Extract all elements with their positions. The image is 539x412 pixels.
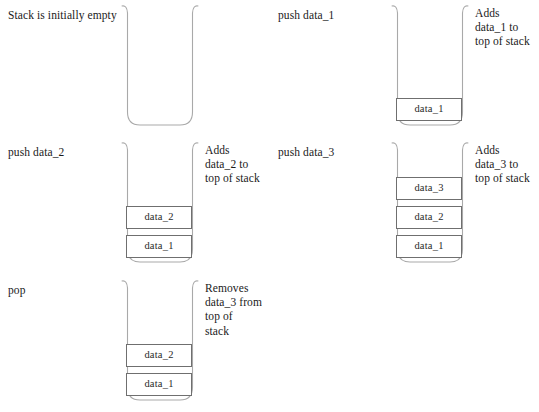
annotation-line: data_1 to (475, 20, 539, 34)
stack-cell: data_2 (126, 344, 192, 367)
stack-cell: data_1 (396, 98, 462, 121)
stack-container: data_1data_2 (115, 279, 205, 405)
stack-step-push-data-3: push data_3 data_1data_2data_3 Addsdata_… (270, 137, 539, 272)
annotation-line: data_2 to (205, 157, 277, 171)
stack-container: data_1data_2 (115, 141, 205, 267)
stack-cell: data_2 (396, 206, 462, 229)
annotation-line: Adds (205, 143, 277, 157)
operation-label: push data_2 (8, 145, 64, 159)
stack-container: data_1 (385, 4, 475, 130)
stack-cell: data_2 (126, 206, 192, 229)
stack-cells: data_1data_2 (126, 206, 192, 258)
stack-outline-icon (115, 4, 205, 130)
stack-cells: data_1data_2data_3 (396, 177, 462, 258)
stack-container: data_1data_2data_3 (385, 141, 475, 267)
stack-cell: data_1 (396, 235, 462, 258)
annotation-line: top of stack (205, 171, 277, 185)
operation-label: pop (8, 283, 26, 297)
operation-label: push data_3 (278, 145, 334, 159)
annotation-note: Addsdata_1 totop of stack (475, 6, 539, 49)
annotation-line: top of (205, 309, 277, 323)
annotation-line: Removes (205, 281, 277, 295)
annotation-line: data_3 from (205, 295, 277, 309)
stack-step-pop: pop data_1data_2 Removesdata_3 fromtop o… (0, 275, 269, 410)
annotation-line: top of stack (475, 171, 539, 185)
annotation-note: Removesdata_3 fromtop ofstack (205, 281, 277, 338)
stack-cells: data_1data_2 (126, 344, 192, 396)
stack-step-push-data-1: push data_1 data_1 Addsdata_1 totop of s… (270, 0, 539, 135)
stack-cell: data_3 (396, 177, 462, 200)
annotation-line: Adds (475, 6, 539, 20)
stack-step-initial: Stack is initially empty (0, 0, 269, 135)
annotation-note: Addsdata_2 totop of stack (205, 143, 277, 186)
annotation-line: data_3 to (475, 157, 539, 171)
operation-label: push data_1 (278, 8, 334, 22)
stack-cell: data_1 (126, 373, 192, 396)
annotation-line: Adds (475, 143, 539, 157)
stack-step-push-data-2: push data_2 data_1data_2 Addsdata_2 toto… (0, 137, 269, 272)
annotation-line: stack (205, 324, 277, 338)
stack-cells: data_1 (396, 98, 462, 121)
annotation-note: Addsdata_3 totop of stack (475, 143, 539, 186)
stack-container (115, 4, 205, 130)
stack-cell: data_1 (126, 235, 192, 258)
annotation-line: top of stack (475, 34, 539, 48)
operation-label: Stack is initially empty (8, 8, 117, 22)
